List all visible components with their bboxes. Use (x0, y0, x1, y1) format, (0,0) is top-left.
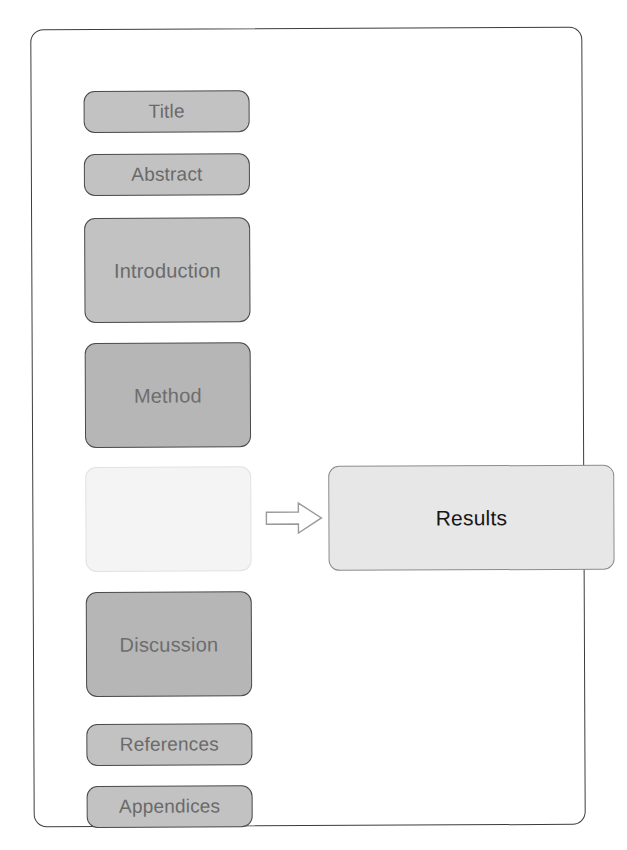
node-introduction[interactable]: Introduction (84, 217, 250, 323)
node-references[interactable]: References (86, 723, 252, 766)
node-abstract-label: Abstract (131, 164, 202, 185)
node-results[interactable]: Results (328, 465, 614, 571)
node-references-label: References (120, 734, 219, 755)
node-method-label: Method (134, 384, 202, 406)
page-outline: Title Abstract Introduction Method Discu… (30, 27, 585, 827)
node-appendices-label: Appendices (119, 796, 220, 817)
diagram-canvas: Title Abstract Introduction Method Discu… (0, 0, 627, 850)
node-title-label: Title (148, 101, 184, 122)
node-discussion-label: Discussion (120, 633, 219, 655)
node-title[interactable]: Title (84, 90, 250, 133)
node-discussion[interactable]: Discussion (86, 591, 252, 697)
node-appendices[interactable]: Appendices (87, 785, 253, 828)
node-abstract[interactable]: Abstract (84, 153, 250, 196)
node-blank-placeholder[interactable] (85, 466, 251, 572)
node-introduction-label: Introduction (114, 259, 221, 281)
node-results-label: Results (436, 506, 508, 529)
block-arrow-right-icon (264, 499, 324, 537)
node-method[interactable]: Method (85, 342, 251, 448)
